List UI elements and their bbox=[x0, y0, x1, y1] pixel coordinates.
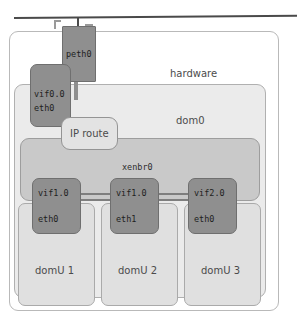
label-hardware: hardware bbox=[170, 69, 217, 79]
label-ip-route: IP route bbox=[70, 129, 109, 139]
xen-network-diagram: peth0 hardware vif0.0 eth0 dom0 IP route… bbox=[0, 0, 297, 328]
label-xenbr0: xenbr0 bbox=[122, 163, 153, 172]
interface-vif2-0-domu3 bbox=[188, 178, 237, 234]
cable-clip-left-side bbox=[54, 20, 56, 29]
label-eth0-domu3: eth0 bbox=[194, 215, 214, 224]
label-vif1-0-domu1: vif1.0 bbox=[38, 189, 69, 198]
interface-vif1-0-domu2 bbox=[110, 178, 159, 234]
network-cable-horizontal bbox=[14, 15, 297, 19]
label-domu-2: domU 2 bbox=[118, 266, 157, 276]
label-vif2-0-domu3: vif2.0 bbox=[194, 189, 225, 198]
label-vif0-0-eth0: eth0 bbox=[34, 104, 54, 113]
vif-connector-b-bottom bbox=[157, 199, 190, 201]
label-dom0: dom0 bbox=[176, 116, 205, 126]
peth0-to-bridge-connector bbox=[74, 80, 78, 100]
label-vif0-0: vif0.0 bbox=[34, 90, 65, 99]
label-eth1-domu2: eth1 bbox=[116, 215, 136, 224]
interface-vif1-0-domu1 bbox=[32, 178, 81, 234]
label-vif1-0-domu2: vif1.0 bbox=[116, 189, 147, 198]
vif-connector-b-top bbox=[157, 193, 190, 195]
label-eth0-domu1: eth0 bbox=[38, 215, 58, 224]
label-domu-1: domU 1 bbox=[35, 266, 74, 276]
vif-connector-a-bottom bbox=[79, 199, 112, 201]
label-domu-3: domU 3 bbox=[201, 266, 240, 276]
label-peth0: peth0 bbox=[66, 50, 92, 59]
vif-connector-a-top bbox=[79, 193, 112, 195]
